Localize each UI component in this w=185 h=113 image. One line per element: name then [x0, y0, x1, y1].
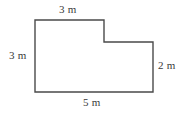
dimension-label-bottom: 5 m: [83, 96, 100, 108]
l-shape-polygon: [35, 20, 153, 92]
dimension-label-right: 2 m: [158, 59, 175, 71]
dimension-label-top: 3 m: [59, 3, 76, 15]
dimension-label-left: 3 m: [9, 49, 26, 61]
geometry-figure: 3 m 3 m 2 m 5 m: [0, 0, 185, 113]
